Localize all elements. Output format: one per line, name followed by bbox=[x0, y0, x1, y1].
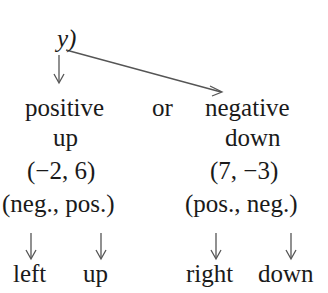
root-diagonal-arrow-icon bbox=[66, 50, 222, 96]
example-left: (−2, 6) bbox=[27, 158, 95, 183]
left-arrow-down-icon bbox=[26, 233, 36, 259]
negative-label: negative bbox=[205, 95, 290, 120]
result-down: down bbox=[258, 261, 314, 286]
or-connector: or bbox=[152, 95, 173, 120]
result-up: up bbox=[83, 261, 108, 286]
root-down-arrow-icon bbox=[54, 55, 64, 83]
example-right: (7, −3) bbox=[210, 158, 278, 183]
sign-direction-diagram: y) positive or negative up down (−2, 6) … bbox=[0, 0, 328, 293]
down-label: down bbox=[225, 125, 281, 150]
right-arrow-down-icon bbox=[211, 233, 221, 259]
root-label: y) bbox=[57, 26, 76, 51]
up-label: up bbox=[53, 125, 78, 150]
result-left: left bbox=[13, 261, 46, 286]
positive-label: positive bbox=[25, 95, 104, 120]
down-arrow-down-icon bbox=[286, 233, 296, 259]
signs-left: (neg., pos.) bbox=[2, 191, 114, 216]
result-right: right bbox=[186, 261, 233, 286]
signs-right: (pos., neg.) bbox=[185, 191, 297, 216]
up-arrow-down-icon bbox=[96, 233, 106, 259]
